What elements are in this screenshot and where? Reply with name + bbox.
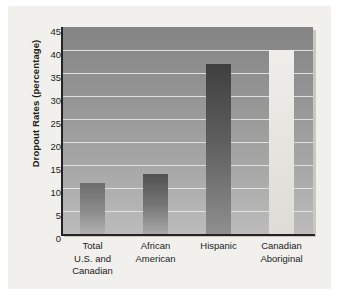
x-axis-category-label: CanadianAboriginal — [250, 240, 313, 265]
y-axis-tick-label: 45 — [30, 26, 61, 37]
bar — [143, 174, 168, 234]
y-axis-tick-label: 35 — [30, 72, 61, 83]
x-axis-line — [61, 234, 315, 236]
x-axis-label-line: African — [124, 240, 187, 253]
x-axis-label-line: U.S. and — [61, 253, 124, 266]
plot-area — [61, 27, 313, 234]
bar — [206, 64, 231, 234]
bar — [269, 50, 294, 234]
x-axis-category-labels: TotalU.S. andCanadianAfricanAmericanHisp… — [61, 240, 315, 288]
x-axis-label-line: Aboriginal — [250, 253, 313, 266]
y-axis-tick-label: 30 — [30, 95, 61, 106]
y-axis-tick-label: 15 — [30, 164, 61, 175]
y-axis-tick-label: 10 — [30, 187, 61, 198]
x-axis-category-label: AfricanAmerican — [124, 240, 187, 265]
bar — [80, 183, 105, 234]
x-axis-category-label: TotalU.S. andCanadian — [61, 240, 124, 278]
chart-figure: Dropout Rates (percentage) 0510152025303… — [8, 6, 331, 289]
y-axis-tick-labels: 051015202530354045 — [30, 29, 61, 229]
x-axis-category-label: Hispanic — [187, 240, 250, 253]
y-axis-line — [61, 27, 63, 236]
y-axis-tick-label: 20 — [30, 141, 61, 152]
x-axis-label-line: Canadian — [250, 240, 313, 253]
x-axis-label-line: American — [124, 253, 187, 266]
y-axis-tick-label: 0 — [30, 233, 61, 244]
y-axis-tick-label: 5 — [30, 210, 61, 221]
x-axis-label-line: Total — [61, 240, 124, 253]
x-axis-label-line: Canadian — [61, 265, 124, 278]
x-axis-label-line: Hispanic — [187, 240, 250, 253]
y-axis-tick-label: 40 — [30, 49, 61, 60]
y-axis-tick-label: 25 — [30, 118, 61, 129]
